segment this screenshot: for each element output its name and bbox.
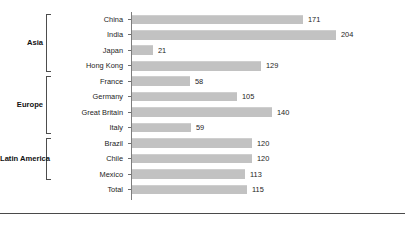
chart-row: Italy59: [0, 120, 405, 135]
bar: [132, 61, 261, 71]
bar-value-label: 21: [158, 43, 166, 58]
category-label: Italy: [52, 120, 123, 135]
bar-value-label: 204: [341, 27, 353, 42]
chart-row: China171: [0, 12, 405, 27]
axis-tick-mark: [128, 127, 131, 128]
category-label: India: [52, 27, 123, 42]
axis-tick-mark: [128, 189, 131, 190]
axis-tick-mark: [128, 143, 131, 144]
chart-row: India204: [0, 27, 405, 42]
chart-row: Chile120: [0, 151, 405, 166]
axis-tick-mark: [128, 19, 131, 20]
bar-value-label: 115: [252, 182, 264, 197]
bar-value-label: 120: [257, 136, 269, 151]
bar: [132, 15, 303, 25]
axis-tick-mark: [128, 158, 131, 159]
category-label: Total: [52, 182, 123, 197]
axis-tick-mark: [128, 96, 131, 97]
chart-row: Germany105: [0, 89, 405, 104]
bar-value-label: 171: [308, 12, 320, 27]
chart-row: Brazil120: [0, 136, 405, 151]
bottom-divider-rule: [0, 213, 405, 214]
axis-tick-mark: [128, 50, 131, 51]
category-label: Germany: [52, 89, 123, 104]
bar: [132, 76, 190, 86]
bar: [132, 30, 336, 40]
bar-chart-figure: AsiaEuropeLatin America China171India204…: [0, 0, 405, 227]
bar: [132, 138, 252, 148]
axis-tick-mark: [128, 65, 131, 66]
axis-tick-mark: [128, 174, 131, 175]
axis-tick-mark: [128, 34, 131, 35]
bar: [132, 92, 237, 102]
bar: [132, 123, 191, 133]
bar-value-label: 59: [196, 120, 204, 135]
bar-value-label: 105: [242, 89, 254, 104]
category-label: Japan: [52, 43, 123, 58]
category-label: Brazil: [52, 136, 123, 151]
category-label: China: [52, 12, 123, 27]
chart-row: Mexico113: [0, 167, 405, 182]
bar: [132, 154, 252, 164]
category-label: Hong Kong: [52, 58, 123, 73]
bar: [132, 185, 247, 195]
category-label: Chile: [52, 151, 123, 166]
bar-value-label: 120: [257, 151, 269, 166]
chart-row: Japan21: [0, 43, 405, 58]
bar: [132, 107, 272, 117]
chart-row: France58: [0, 74, 405, 89]
bar-value-label: 58: [195, 74, 203, 89]
bar-value-label: 140: [277, 105, 289, 120]
category-label: Mexico: [52, 167, 123, 182]
axis-tick-mark: [128, 81, 131, 82]
category-label: France: [52, 74, 123, 89]
bar-value-label: 113: [250, 167, 262, 182]
plot-area: AsiaEuropeLatin America China171India204…: [0, 0, 405, 205]
chart-row: Total115: [0, 182, 405, 197]
bar: [132, 45, 153, 55]
axis-tick-mark: [128, 112, 131, 113]
chart-row: Hong Kong129: [0, 58, 405, 73]
category-label: Great Britain: [52, 105, 123, 120]
bar: [132, 169, 245, 179]
chart-row: Great Britain140: [0, 105, 405, 120]
bar-value-label: 129: [266, 58, 278, 73]
